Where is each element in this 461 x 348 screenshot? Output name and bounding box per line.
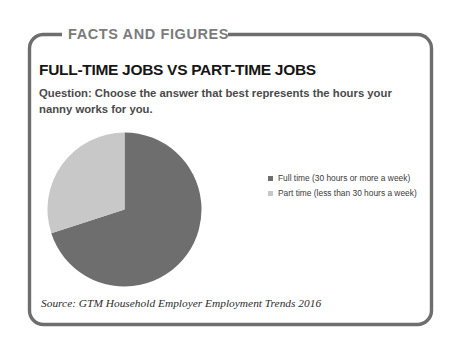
legend-item-part-time: Part time (less than 30 hours a week) [268, 187, 433, 199]
banner-label: FACTS AND FIGURES [68, 25, 229, 43]
chart-legend: Full time (30 hours or more a week) Part… [268, 172, 433, 202]
legend-item-full-time: Full time (30 hours or more a week) [268, 172, 433, 184]
legend-swatch-icon [268, 191, 273, 196]
pie-chart: Full time (30 hours or more a week) Part… [28, 125, 433, 295]
legend-item-label: Part time (less than 30 hours a week) [278, 187, 417, 199]
question-text: Question: Choose the answer that best re… [39, 85, 414, 117]
source-note: Source: GTM Household Employer Employmen… [41, 297, 321, 309]
pie-chart-graphic [47, 132, 202, 287]
legend-swatch-icon [268, 176, 273, 181]
infographic-card: FACTS AND FIGURES FULL-TIME JOBS VS PART… [0, 0, 461, 348]
legend-item-label: Full time (30 hours or more a week) [278, 172, 410, 184]
page-title: FULL-TIME JOBS VS PART-TIME JOBS [39, 61, 316, 79]
